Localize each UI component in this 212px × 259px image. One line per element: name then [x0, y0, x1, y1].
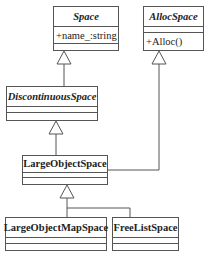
class-methods	[6, 244, 106, 250]
class-methods	[113, 244, 178, 250]
class-name: LargeObjectSpace	[23, 156, 107, 173]
inheritance-arrow-icon	[57, 51, 71, 64]
class-attributes	[7, 107, 97, 114]
class-name: AllocSpace	[144, 7, 203, 27]
class-methods	[7, 113, 97, 120]
class-methods	[54, 44, 118, 50]
inheritance-arrow-icon	[49, 121, 63, 134]
class-methods	[23, 178, 107, 184]
class-discontinuousspace: DiscontinuousSpace	[6, 86, 98, 121]
class-name: LargeObjectMapSpace	[6, 218, 106, 238]
inheritance-arrow-icon	[60, 185, 74, 198]
class-attributes	[6, 238, 106, 245]
class-allocspace: AllocSpace +Alloc()	[143, 6, 204, 51]
class-name: DiscontinuousSpace	[7, 87, 97, 107]
class-attributes	[113, 238, 178, 245]
class-space: Space +name_:string	[53, 6, 119, 51]
class-name: Space	[54, 7, 118, 27]
inheritance-arrow-icon	[152, 51, 166, 64]
class-largeobjectspace: LargeObjectSpace	[22, 155, 108, 185]
class-attribute: +name_:string	[54, 27, 118, 45]
class-name: FreeListSpace	[113, 218, 178, 238]
class-largeobjectmapspace: LargeObjectMapSpace	[5, 217, 107, 251]
class-attributes	[144, 27, 203, 34]
class-freelistspace: FreeListSpace	[112, 217, 179, 251]
class-method: +Alloc()	[144, 33, 203, 50]
